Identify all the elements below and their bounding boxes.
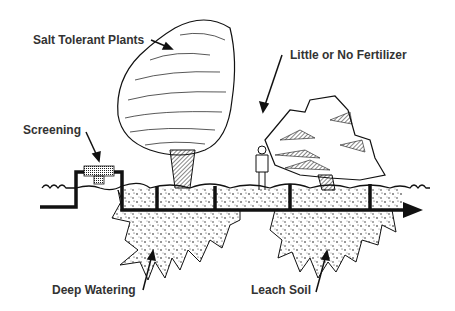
label-deep-watering: Deep Watering: [52, 283, 136, 297]
topsoil-layer: [122, 188, 402, 210]
salt-tolerant-tree-trunk: [170, 150, 195, 188]
label-screening: Screening: [23, 123, 81, 137]
label-leach-soil: Leach Soil: [251, 283, 311, 297]
flow-arrow-head: [403, 202, 423, 218]
label-little-or-no-fertilizer: Little or No Fertilizer: [290, 48, 407, 62]
leach-soil-zone: [270, 210, 396, 278]
shrub-trunk: [318, 175, 335, 190]
person-figure: [256, 146, 268, 190]
screening-mesh: [84, 166, 114, 176]
label-salt-tolerant-plants: Salt Tolerant Plants: [33, 33, 144, 47]
screening-stem: [94, 176, 104, 184]
